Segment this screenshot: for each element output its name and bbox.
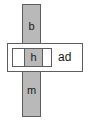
- horizontal-box: h ad: [7, 43, 83, 72]
- nested-box: h: [12, 48, 52, 67]
- nested-box-cell: h: [24, 49, 43, 66]
- diagram-canvas: b m h ad: [0, 0, 89, 122]
- horizontal-box-label: ad: [58, 50, 71, 65]
- vertical-bar-bottom-label: m: [22, 85, 41, 96]
- vertical-bar-top-label: b: [22, 21, 41, 32]
